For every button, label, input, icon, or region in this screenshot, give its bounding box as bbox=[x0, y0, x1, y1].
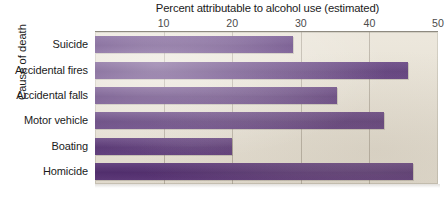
bar-row bbox=[95, 87, 438, 104]
category-label-accidental-fires: Accidental fires bbox=[15, 64, 88, 76]
bar-chart-figure: Percent attributable to alcohol use (est… bbox=[0, 0, 446, 205]
gridline-40 bbox=[369, 32, 370, 184]
category-label-boating: Boating bbox=[51, 140, 88, 152]
bar-motor-vehicle bbox=[95, 112, 384, 129]
bar-accidental-falls bbox=[95, 87, 337, 104]
gridline-20 bbox=[232, 32, 233, 184]
bar-row bbox=[95, 62, 438, 79]
bar-boating bbox=[95, 138, 232, 155]
x-tick-20: 20 bbox=[226, 17, 238, 29]
bar-row bbox=[95, 112, 438, 129]
gridline-30 bbox=[301, 32, 302, 184]
chart-title: Percent attributable to alcohol use (est… bbox=[95, 2, 440, 14]
gridline-10 bbox=[164, 32, 165, 184]
category-label-column: SuicideAccidental firesAccidental fallsM… bbox=[0, 32, 92, 184]
x-tick-10: 10 bbox=[158, 17, 170, 29]
bar-row bbox=[95, 163, 438, 180]
bar-row bbox=[95, 138, 438, 155]
bar-accidental-fires bbox=[95, 62, 408, 79]
plot-area bbox=[95, 32, 438, 184]
bar-suicide bbox=[95, 36, 293, 53]
page-shadow bbox=[95, 184, 440, 188]
category-label-motor-vehicle: Motor vehicle bbox=[24, 114, 88, 126]
bar-row bbox=[95, 36, 438, 53]
category-label-suicide: Suicide bbox=[53, 38, 88, 50]
category-label-homicide: Homicide bbox=[43, 165, 88, 177]
category-label-accidental-falls: Accidental falls bbox=[16, 89, 88, 101]
x-tick-40: 40 bbox=[363, 17, 375, 29]
x-tick-30: 30 bbox=[295, 17, 307, 29]
bar-homicide bbox=[95, 163, 413, 180]
x-tick-50: 50 bbox=[432, 17, 444, 29]
